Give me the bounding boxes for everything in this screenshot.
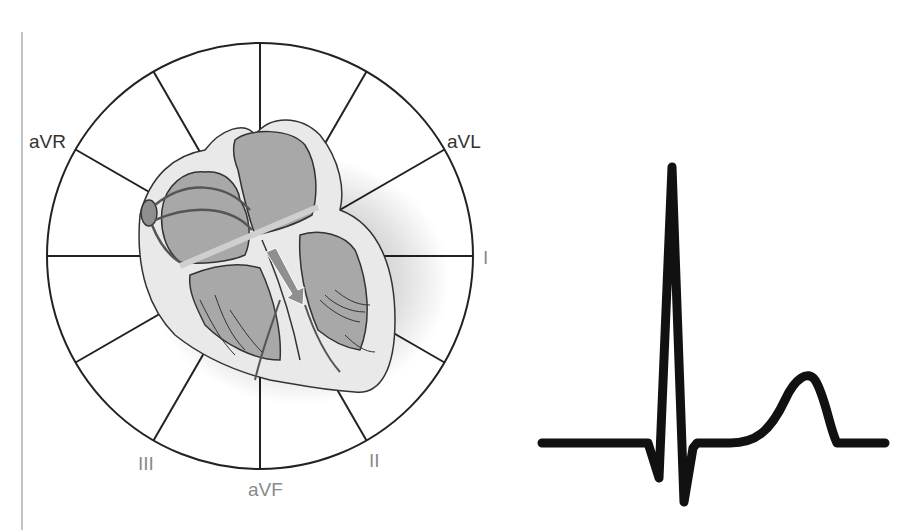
label-aVF: aVF — [248, 479, 283, 500]
label-I: I — [483, 247, 488, 268]
diagram-canvas: aVR aVL I II aVF III — [0, 0, 910, 530]
label-III: III — [138, 453, 154, 474]
label-II: II — [369, 450, 380, 471]
ecg-waveform — [542, 167, 885, 502]
label-aVR: aVR — [29, 131, 66, 152]
diagram-svg: aVR aVL I II aVF III — [0, 0, 910, 530]
label-aVL: aVL — [447, 131, 481, 152]
